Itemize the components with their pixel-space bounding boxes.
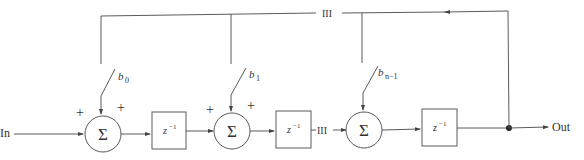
coefficient-bn-1: b n−1 [363,66,398,110]
svg-text:b: b [378,66,384,78]
svg-text:1: 1 [256,74,260,83]
svg-text:−1: −1 [169,123,177,131]
svg-text:n−1: n−1 [385,72,398,81]
summer-n-1: Σ [346,112,382,148]
svg-text:z: z [162,125,167,136]
plus-sign: + [247,98,255,113]
sigma-icon: Σ [227,122,237,141]
delay-n-1: z −1 [422,109,457,146]
delay-0: z −1 [152,112,186,149]
ellipsis: III [317,125,327,136]
block-diagram: In Σ + + z −1 Σ + + z −1 III Σ z [0,0,584,160]
coefficient-b1: b 1 [231,68,260,111]
svg-text:b: b [118,70,124,82]
plus-sign: + [206,102,214,117]
sigma-icon: Σ [359,121,369,140]
svg-text:z: z [432,122,437,133]
plus-sign: + [117,100,125,115]
svg-text:−1: −1 [293,122,301,130]
output-label: Out [552,120,571,134]
delay-1: z −1 [276,111,311,148]
sigma-icon: Σ [98,125,108,144]
svg-text:z: z [286,124,291,135]
input-label: In [0,126,10,140]
ellipsis: III [322,8,332,19]
svg-text:−1: −1 [439,120,447,128]
svg-text:0: 0 [125,76,129,85]
plus-sign: + [76,105,84,120]
input: In [0,126,83,140]
svg-text:b: b [249,68,255,80]
